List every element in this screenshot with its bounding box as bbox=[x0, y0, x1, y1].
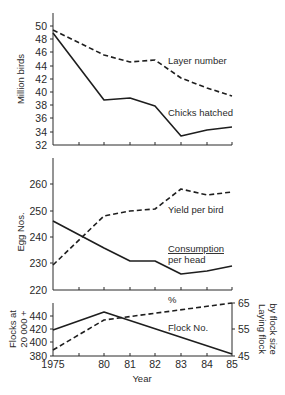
bottom-right-tick-label: 45 bbox=[238, 350, 250, 362]
top-tick-label: 42 bbox=[35, 73, 47, 85]
bottom-right-y-ticks: 65 55 45 bbox=[232, 297, 250, 362]
top-tick-label: 40 bbox=[35, 86, 47, 98]
chart-svg: 50 48 46 44 42 40 38 36 34 32 Million bi… bbox=[0, 0, 285, 395]
bottom-right-axis-label-line1: Laying flock bbox=[257, 304, 268, 354]
top-y-ticks: 50 48 46 44 42 40 38 36 34 32 bbox=[35, 20, 53, 151]
top-tick-label: 34 bbox=[35, 126, 47, 138]
top-tick-label: 38 bbox=[35, 99, 47, 111]
percent-label: % bbox=[168, 294, 177, 305]
middle-tick-label: 240 bbox=[29, 231, 47, 243]
flock-number-label: Flock No. bbox=[168, 322, 208, 333]
yield-per-bird-label: Yield per bird bbox=[168, 204, 224, 215]
bottom-y-ticks: 440 420 400 380 bbox=[29, 310, 53, 362]
top-tick-label: 36 bbox=[35, 112, 47, 124]
bottom-tick-label: 420 bbox=[29, 323, 47, 335]
bottom-right-axis-label-line2: by flock size bbox=[268, 303, 279, 355]
x-axis-title: Year bbox=[132, 373, 151, 384]
x-tick-label: 85 bbox=[226, 358, 238, 370]
bottom-tick-label: 440 bbox=[29, 310, 47, 322]
middle-panel: 260 250 240 230 220 Egg Nos. Yield per b… bbox=[15, 158, 232, 296]
x-axis-labels: 1975 80 81 82 83 84 85 Year bbox=[41, 358, 238, 384]
middle-tick-label: 260 bbox=[29, 178, 47, 190]
x-tick-label: 82 bbox=[149, 358, 161, 370]
layer-number-label: Layer number bbox=[168, 55, 227, 66]
bottom-right-tick-label: 55 bbox=[238, 323, 250, 335]
top-y-axis-label: Million birds bbox=[15, 54, 26, 104]
middle-y-axis-label: Egg Nos. bbox=[15, 212, 26, 251]
x-tick-label: 83 bbox=[175, 358, 187, 370]
consumption-label-line2: per head bbox=[168, 254, 206, 265]
chicks-hatched-line bbox=[53, 33, 232, 136]
top-tick-label: 48 bbox=[35, 33, 47, 45]
x-tick-label: 1975 bbox=[41, 358, 65, 370]
chart-figure: 50 48 46 44 42 40 38 36 34 32 Million bi… bbox=[0, 0, 285, 395]
bottom-y-axis-label-line2: 20 000 + bbox=[18, 310, 29, 348]
x-tick-label: 81 bbox=[124, 358, 136, 370]
bottom-tick-label: 400 bbox=[29, 336, 47, 348]
bottom-right-tick-label: 65 bbox=[238, 297, 250, 309]
bottom-y-axis-label-line1: Flocks at bbox=[7, 310, 18, 348]
consumption-label-line1: Consumption bbox=[168, 243, 224, 254]
top-panel: 50 48 46 44 42 40 38 36 34 32 Million bi… bbox=[15, 13, 233, 151]
flock-number-line bbox=[53, 312, 232, 354]
middle-tick-label: 230 bbox=[29, 257, 47, 269]
middle-y-ticks: 260 250 240 230 220 bbox=[29, 178, 53, 296]
x-tick-label: 80 bbox=[98, 358, 110, 370]
middle-tick-label: 250 bbox=[29, 205, 47, 217]
top-tick-label: 50 bbox=[35, 20, 47, 32]
top-tick-label: 32 bbox=[35, 139, 47, 151]
bottom-panel: 440 420 400 380 65 55 45 Flocks at 20 00… bbox=[7, 294, 279, 362]
x-tick-label: 84 bbox=[201, 358, 213, 370]
top-tick-label: 46 bbox=[35, 46, 47, 58]
middle-tick-label: 220 bbox=[29, 284, 47, 296]
top-tick-label: 44 bbox=[35, 60, 47, 72]
chicks-hatched-label: Chicks hatched bbox=[168, 107, 233, 118]
